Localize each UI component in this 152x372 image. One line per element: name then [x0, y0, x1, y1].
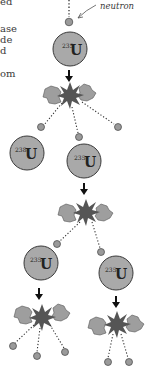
neutron-label: neutron	[100, 1, 134, 11]
fission-event-2	[58, 199, 113, 226]
neutron-path	[72, 107, 78, 133]
neutron-pointer-line	[78, 5, 96, 18]
element-symbol: U	[115, 266, 127, 282]
element-symbol: U	[84, 154, 96, 170]
down-arrow-icon	[80, 183, 88, 195]
neutron	[105, 359, 112, 366]
neutron	[62, 349, 69, 356]
incoming-neutron	[65, 18, 73, 26]
nucleus-u235-bottom-left: 235 U	[24, 246, 58, 280]
neutron	[115, 124, 122, 131]
neutron-path	[37, 328, 40, 352]
element-symbol: U	[25, 146, 37, 162]
neutron-path	[121, 334, 128, 358]
neutron	[38, 124, 45, 131]
down-arrow-icon	[112, 296, 120, 308]
neutron	[98, 249, 105, 256]
element-symbol: U	[40, 256, 52, 272]
fission-chain-diagram: 235 U 238 U 235 U	[0, 0, 152, 372]
neutron-path	[50, 325, 64, 348]
neutron	[10, 343, 17, 350]
fission-event-3	[14, 304, 70, 331]
down-arrow-icon	[35, 288, 43, 300]
down-arrow-icon	[65, 70, 73, 82]
neutron	[54, 241, 61, 248]
fission-event-4	[88, 311, 144, 338]
nucleus-u235-bottom-right: 235 U	[99, 256, 133, 290]
neutron	[76, 134, 83, 141]
neutron	[126, 359, 133, 366]
nucleus-u238: 238 U	[10, 136, 44, 170]
neutron-path	[82, 102, 114, 124]
neutron-path	[60, 222, 80, 241]
neutron-path	[108, 334, 113, 358]
neutron-path	[44, 103, 62, 125]
element-symbol: U	[70, 42, 82, 58]
neutron-path	[92, 222, 100, 248]
nucleus-u235-middle: 235 U	[67, 144, 101, 178]
neutron-path	[15, 325, 34, 343]
neutron	[34, 353, 41, 360]
nucleus-u235-top: 235 U	[53, 32, 87, 66]
fission-event-1	[43, 82, 96, 109]
